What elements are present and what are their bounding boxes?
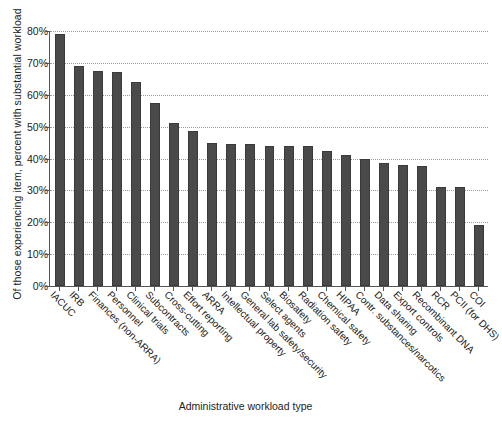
bar: [112, 72, 122, 286]
bar: [188, 131, 198, 286]
bar: [265, 146, 275, 286]
plot-area: [49, 31, 488, 287]
bar: [360, 159, 370, 287]
bar-series: [50, 31, 488, 286]
bar: [322, 151, 332, 286]
bar: [169, 123, 179, 286]
bar: [226, 144, 236, 286]
bar: [207, 143, 217, 286]
bar: [341, 155, 351, 286]
bar: [284, 146, 294, 286]
bar: [379, 163, 389, 286]
bar: [131, 82, 141, 286]
bar: [417, 166, 427, 286]
bar: [150, 103, 160, 286]
bar: [303, 146, 313, 286]
bar: [245, 144, 255, 286]
bar: [474, 225, 484, 286]
bar: [74, 66, 84, 286]
bar: [455, 187, 465, 286]
y-axis-tick-labels: 0%10%20%30%40%50%60%70%80%: [14, 0, 48, 425]
bar: [436, 187, 446, 286]
x-axis-tick-labels: IACUCIRBFinances (non-ARRA)PersonnelClin…: [49, 289, 491, 399]
y-axis-tick-mark: [45, 286, 50, 287]
bar: [93, 71, 103, 286]
bar: [398, 165, 408, 286]
bar: [55, 34, 65, 286]
x-axis-title: Administrative workload type: [0, 400, 491, 412]
